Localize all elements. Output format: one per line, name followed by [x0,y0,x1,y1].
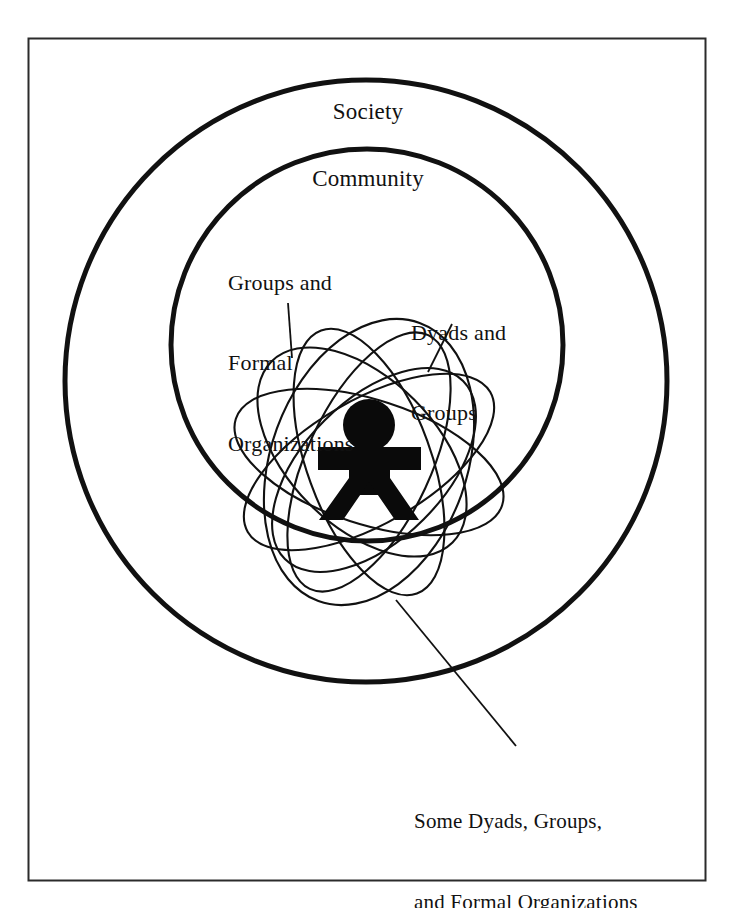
label-community: Community [0,165,736,193]
label-other-communities: Some Dyads, Groups, and Formal Organizat… [414,753,638,908]
label-society: Society [0,98,736,126]
label-groups-and-formal-organizations: Groups and Formal Organizations [228,216,354,511]
label-other-communities-line-1: Some Dyads, Groups, [414,808,638,835]
label-dyads-and-groups: Dyads and Groups [411,266,506,481]
label-dyads-groups-line-1: Dyads and [411,320,506,347]
label-groups-formal-line-2: Formal [228,350,354,377]
diagram-figure: Society Community Groups and Formal Orga… [0,0,736,908]
label-groups-formal-line-3: Organizations [228,431,354,458]
label-dyads-groups-line-2: Groups [411,400,506,427]
label-groups-formal-line-1: Groups and [228,270,354,297]
label-other-communities-line-2: and Formal Organizations [414,889,638,908]
